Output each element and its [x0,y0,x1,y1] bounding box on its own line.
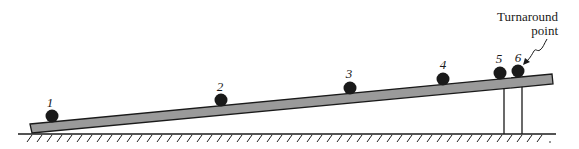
ground [18,134,556,143]
ball-position-3 [344,82,357,95]
ball-position-6 [512,65,525,78]
ball-position-2 [215,94,228,107]
label-2: 2 [217,79,224,94]
annotation-line-1: Turnaround [497,9,558,24]
label-1: 1 [47,95,54,110]
ramp-supports [504,86,522,134]
label-5: 5 [496,51,503,66]
squiggle-arrow-icon [527,39,547,61]
ball-position-4 [437,73,450,86]
inclined-ramp [30,74,553,133]
ball-position-1 [46,110,59,123]
label-3: 3 [345,66,353,81]
ground-hatching [27,135,542,142]
incline-diagram: 1 2 3 4 5 6 Turnaround point [0,0,579,149]
turnaround-annotation: Turnaround point [497,9,558,65]
ball-position-5 [494,67,507,80]
label-6: 6 [515,50,522,65]
annotation-line-2: point [531,23,558,38]
label-4: 4 [440,57,447,72]
